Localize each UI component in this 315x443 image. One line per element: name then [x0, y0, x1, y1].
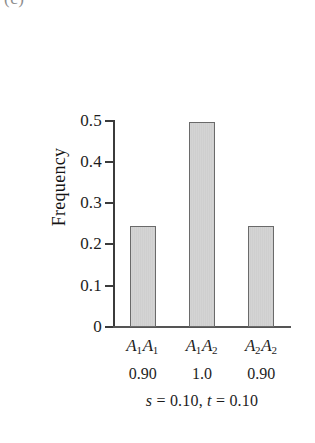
y-axis-tick-label-text: 0.1 — [66, 277, 102, 294]
genotype-subscript: 1 — [196, 344, 202, 356]
y-axis-tick-label-text: 0 — [66, 318, 102, 335]
s-symbol: s — [146, 392, 152, 409]
y-axis-tick — [105, 285, 113, 287]
y-axis-tick-label-text: 0.5 — [66, 112, 102, 129]
y-axis-tick-label: 0.4 — [66, 153, 102, 170]
y-axis-line — [113, 120, 115, 328]
y-axis-tick-label: 0.5 — [66, 112, 102, 129]
y-axis-tick-label: 0.2 — [66, 235, 102, 252]
y-axis-tick — [105, 202, 113, 204]
bar-a1a2 — [189, 122, 215, 327]
y-axis-title: Frequency — [48, 122, 70, 252]
s-value: = 0.10, — [156, 392, 202, 409]
fitness-value-a1a2: 1.0 — [172, 365, 231, 383]
y-axis-tick — [105, 243, 113, 245]
genotype-subscript: 1 — [136, 344, 142, 356]
fitness-value-a1a1: 0.90 — [113, 365, 172, 383]
t-value: = 0.10 — [216, 392, 258, 409]
y-axis-tick-label-text: 0.3 — [66, 194, 102, 211]
genotype-allele: A — [202, 336, 213, 355]
selection-coefficient-caption: s = 0.10, t = 0.10 — [113, 392, 291, 410]
genotype-subscript: 2 — [212, 344, 218, 356]
y-axis-tick-label-text: 0.4 — [66, 153, 102, 170]
fitness-value-a2a2: 0.90 — [232, 365, 291, 383]
y-axis-tick-label: 0.3 — [66, 194, 102, 211]
y-axis-tick-label: 0 — [66, 318, 102, 335]
y-axis-tick — [105, 326, 113, 328]
genotype-allele: A — [186, 336, 197, 355]
bar-chart: 0.5 0.4 0.3 0.2 0.1 0 Frequency A1A1 A1A… — [0, 0, 315, 443]
y-axis-tick — [105, 161, 113, 163]
y-axis-tick-label-text: 0.2 — [66, 235, 102, 252]
x-axis-category-labels: A1A1 A1A2 A2A2 — [113, 337, 291, 356]
t-symbol: t — [207, 392, 212, 409]
y-axis-tick-label: 0.1 — [66, 277, 102, 294]
genotype-subscript: 2 — [271, 344, 277, 356]
y-axis-tick — [105, 120, 113, 122]
x-axis-label-a1a2: A1A2 — [172, 337, 231, 356]
genotype-allele: A — [143, 336, 154, 355]
x-axis-label-a2a2: A2A2 — [232, 337, 291, 356]
genotype-subscript: 1 — [153, 344, 159, 356]
genotype-subscript: 2 — [255, 344, 261, 356]
x-axis-label-a1a1: A1A1 — [113, 337, 172, 356]
bar-a1a1 — [130, 226, 156, 327]
bar-a2a2 — [248, 226, 274, 327]
fitness-value-row: 0.90 1.0 0.90 — [113, 365, 291, 383]
